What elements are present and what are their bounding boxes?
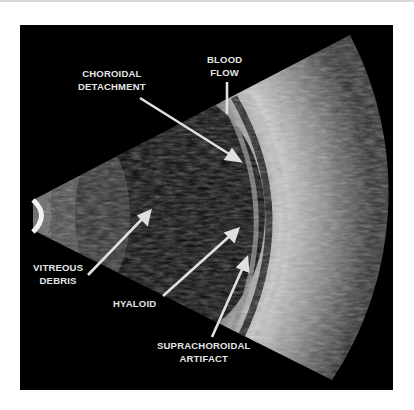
- label-hyaloid: HYALOID: [113, 298, 156, 311]
- ultrasound-panel: CHOROIDAL DETACHMENT BLOOD FLOW VITREOUS…: [20, 25, 393, 390]
- label-line: HYALOID: [113, 298, 156, 311]
- label-line: ARTIFACT: [157, 353, 251, 366]
- label-suprachoroidal-artifact: SUPRACHOROIDAL ARTIFACT: [157, 340, 251, 365]
- ultrasound-scan-image: [20, 25, 393, 390]
- label-line: DETACHMENT: [78, 81, 146, 94]
- label-line: CHOROIDAL: [78, 68, 146, 81]
- label-line: BLOOD: [207, 54, 242, 67]
- label-line: SUPRACHOROIDAL: [157, 340, 251, 353]
- label-line: VITREOUS: [33, 262, 83, 275]
- label-line: FLOW: [207, 67, 242, 80]
- label-vitreous-debris: VITREOUS DEBRIS: [33, 262, 83, 287]
- label-line: DEBRIS: [33, 275, 83, 288]
- top-rule: [0, 0, 414, 2]
- label-choroidal-detachment: CHOROIDAL DETACHMENT: [78, 68, 146, 93]
- label-blood-flow: BLOOD FLOW: [207, 54, 242, 79]
- scan-fan: [20, 25, 393, 390]
